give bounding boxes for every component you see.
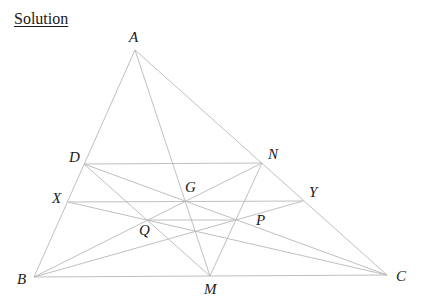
label-B: B [17, 271, 26, 287]
segment-NM [210, 163, 262, 276]
segment-DN [84, 163, 262, 164]
label-G: G [185, 179, 196, 195]
label-Y: Y [309, 184, 319, 200]
segments [34, 50, 387, 277]
segment-DC [84, 164, 387, 275]
label-M: M [203, 281, 218, 297]
label-A: A [128, 29, 139, 45]
label-Q: Q [139, 222, 150, 238]
label-C: C [396, 268, 407, 284]
geometry-diagram: A B C M D N X Y G Q P [0, 0, 422, 308]
label-P: P [255, 212, 265, 228]
label-D: D [68, 149, 80, 165]
label-X: X [51, 190, 62, 206]
label-N: N [267, 146, 279, 162]
